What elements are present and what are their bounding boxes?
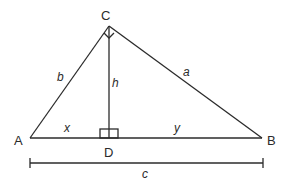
- vertex-label-d: D: [104, 145, 113, 160]
- vertex-label-b: B: [267, 133, 276, 148]
- segment-label-x: x: [63, 121, 71, 135]
- side-label-a: a: [183, 65, 190, 79]
- side-label-h: h: [112, 76, 119, 90]
- segment-label-y: y: [173, 121, 181, 135]
- vertex-label-c: C: [101, 8, 110, 23]
- vertex-label-a: A: [14, 133, 23, 148]
- side-label-b: b: [57, 70, 64, 84]
- side-a: [109, 26, 262, 138]
- triangle-diagram: C A B D b a h x y c: [0, 0, 288, 192]
- side-label-c: c: [142, 167, 148, 181]
